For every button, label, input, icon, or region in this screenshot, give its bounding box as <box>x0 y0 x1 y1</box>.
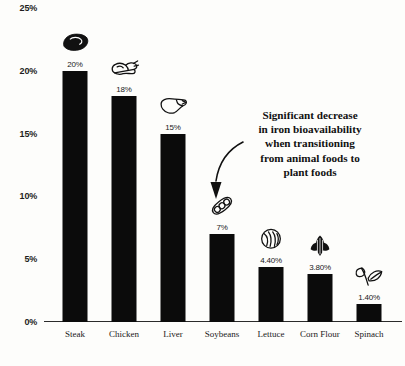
bar-slot: 20%Steak <box>52 8 98 322</box>
bar-slot: 18%Chicken <box>101 8 147 322</box>
annotation-line: in iron bioavailability <box>224 122 396 136</box>
y-axis-tick-label: 0% <box>24 317 37 327</box>
bar-value-label: 3.80% <box>309 263 331 272</box>
x-axis-category-label: Liver <box>163 329 183 339</box>
bar-value-label: 4.40% <box>260 256 282 265</box>
annotation-line: when transitioning <box>224 136 396 150</box>
x-axis-category-label: Chicken <box>109 329 139 339</box>
annotation-line: from animal foods to <box>224 151 396 165</box>
x-axis-category-label: Spinach <box>355 329 384 339</box>
annotation-line: Significant decrease <box>224 108 396 122</box>
bar[interactable] <box>357 304 382 322</box>
x-axis-category-label: Soybeans <box>205 329 240 339</box>
x-axis-category-label: Corn Flour <box>300 329 340 339</box>
bar[interactable] <box>259 267 284 322</box>
y-axis-tick-label: 15% <box>20 129 37 139</box>
y-axis-tick-label: 10% <box>20 191 37 201</box>
bar[interactable] <box>112 96 137 322</box>
y-axis-tick-label: 5% <box>24 254 37 264</box>
bar[interactable] <box>63 71 88 322</box>
steak-icon <box>58 30 92 58</box>
corn-icon <box>303 233 337 261</box>
x-axis-category-label: Steak <box>65 329 85 339</box>
bar-value-label: 7% <box>216 223 227 232</box>
annotation-text: Significant decreasein iron bioavailabil… <box>224 108 396 179</box>
bar-value-label: 1.40% <box>358 293 380 302</box>
bar-value-label: 18% <box>116 85 131 94</box>
bar[interactable] <box>161 134 186 322</box>
lettuce-icon <box>254 226 288 254</box>
annotation-line: plant foods <box>224 165 396 179</box>
chicken-icon <box>107 55 141 83</box>
y-axis-tick-label: 25% <box>20 3 37 13</box>
bar[interactable] <box>210 234 235 322</box>
spinach-icon <box>352 263 386 291</box>
bar-slot: 15%Liver <box>150 8 196 322</box>
bar-value-label: 15% <box>165 123 180 132</box>
y-axis-tick-label: 20% <box>20 66 37 76</box>
liver-icon <box>156 93 190 121</box>
curved-down-arrow-icon <box>203 139 247 203</box>
chart-page: 25%20%15%10%5%0% 20%Steak18%Chicken15%Li… <box>0 0 405 366</box>
x-axis-category-label: Lettuce <box>258 329 285 339</box>
bar-value-label: 20% <box>67 60 82 69</box>
bar[interactable] <box>308 274 333 322</box>
